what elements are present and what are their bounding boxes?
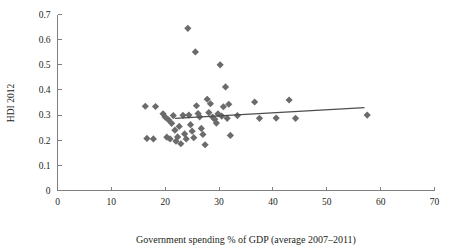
x-axis-title: Government spending % of GDP (average 20… xyxy=(136,234,356,246)
x-tick-label: 30 xyxy=(214,197,224,207)
x-tick-label: 60 xyxy=(376,197,386,207)
data-point xyxy=(273,114,280,121)
data-point xyxy=(222,83,229,90)
data-point xyxy=(217,61,224,68)
y-tick-label: 0 xyxy=(46,186,51,196)
data-point xyxy=(190,134,197,141)
data-point xyxy=(227,132,234,139)
y-tick-label: 0.4 xyxy=(39,85,51,95)
data-point xyxy=(251,98,258,105)
data-point xyxy=(192,48,199,55)
data-point xyxy=(285,96,292,103)
chart-canvas: 00.10.20.30.40.50.60.7 010203040506070 G… xyxy=(0,0,461,251)
y-tick-label: 0.6 xyxy=(39,35,51,45)
x-tick-label: 70 xyxy=(430,197,440,207)
y-tick-label: 0.5 xyxy=(39,60,51,70)
y-tick-label: 0.3 xyxy=(39,110,51,120)
data-point xyxy=(152,103,159,110)
y-tick-label: 0.7 xyxy=(39,10,51,20)
x-tick-label: 0 xyxy=(55,197,60,207)
x-axis-tick-labels: 010203040506070 xyxy=(55,197,439,207)
y-tick-label: 0.1 xyxy=(39,161,51,171)
y-axis-tick-marks xyxy=(58,15,62,191)
x-tick-label: 10 xyxy=(107,197,117,207)
x-tick-label: 50 xyxy=(322,197,332,207)
data-point xyxy=(184,25,191,32)
x-tick-label: 20 xyxy=(160,197,170,207)
y-axis-tick-labels: 00.10.20.30.40.50.60.7 xyxy=(39,10,51,196)
data-point xyxy=(187,121,194,128)
data-point xyxy=(189,128,196,135)
data-point xyxy=(234,112,241,119)
trend-line xyxy=(175,108,365,119)
y-tick-label: 0.2 xyxy=(39,136,51,146)
data-point xyxy=(201,141,208,148)
data-point xyxy=(199,131,206,138)
data-point xyxy=(142,103,149,110)
data-point xyxy=(256,115,263,122)
data-point xyxy=(364,111,371,118)
x-axis-tick-marks xyxy=(58,187,435,191)
data-point xyxy=(193,102,200,109)
x-tick-label: 40 xyxy=(268,197,278,207)
data-point xyxy=(150,135,157,142)
y-axis-title: HDI 2012 xyxy=(6,84,16,123)
scatter-chart-figure: 00.10.20.30.40.50.60.7 010203040506070 G… xyxy=(0,0,461,251)
data-point xyxy=(143,135,150,142)
data-point-markers xyxy=(142,25,371,149)
data-point xyxy=(292,115,299,122)
data-point xyxy=(198,125,205,132)
